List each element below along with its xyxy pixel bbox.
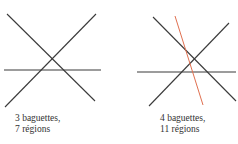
caption-right-line1: 4 baguettes,: [160, 113, 205, 124]
caption-right: 4 baguettes, 11 régions: [160, 113, 205, 135]
added-red-baguette-line: [175, 16, 203, 105]
figure-4-baguettes: [137, 16, 236, 106]
caption-left-line1: 3 baguettes,: [15, 113, 60, 124]
baguette-line: [149, 23, 229, 106]
baguette-line: [7, 14, 95, 101]
figure-3-baguettes: [4, 14, 101, 107]
baguette-line: [5, 14, 96, 107]
diagram-canvas: 3 baguettes, 7 régions 4 baguettes, 11 r…: [0, 0, 238, 144]
caption-right-line2: 11 régions: [160, 124, 205, 135]
caption-left-line2: 7 régions: [15, 124, 60, 135]
caption-left: 3 baguettes, 7 régions: [15, 113, 60, 135]
